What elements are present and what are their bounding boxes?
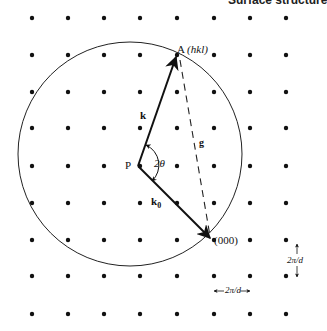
lattice-point [284, 53, 288, 57]
k0-vector [138, 166, 210, 238]
lattice-point [175, 90, 179, 94]
lattice-point [138, 126, 142, 130]
lattice-point [138, 274, 142, 278]
lattice-point [175, 312, 179, 316]
horizontal-spacing-label: 2π/d [225, 286, 241, 295]
lattice-point [102, 90, 106, 94]
lattice-point [102, 312, 106, 316]
lattice-point [66, 164, 70, 168]
lattice-point [66, 16, 70, 20]
lattice-point [248, 164, 252, 168]
lattice-point [284, 90, 288, 94]
lattice-point [212, 274, 216, 278]
g-vector [180, 60, 210, 236]
angle-label: 2θ [154, 158, 165, 169]
lattice-point [175, 164, 179, 168]
lattice-point [66, 201, 70, 205]
lattice-point [66, 126, 70, 130]
lattice-point [30, 53, 34, 57]
lattice-point [284, 312, 288, 316]
ewald-sphere [18, 42, 242, 266]
lattice-point [138, 53, 142, 57]
point-a-letter: A [177, 43, 184, 55]
lattice-point [102, 201, 106, 205]
lattice-point [248, 238, 252, 242]
lattice-point [212, 312, 216, 316]
lattice-point [212, 201, 216, 205]
k0-subscript: 0 [157, 201, 161, 210]
lattice-point [212, 16, 216, 20]
k-label: k [140, 110, 146, 121]
lattice-point [175, 126, 179, 130]
lattice-point [212, 53, 216, 57]
lattice-point [102, 16, 106, 20]
lattice-point [284, 16, 288, 20]
lattice-point [30, 164, 34, 168]
lattice-point [30, 90, 34, 94]
lattice-point [138, 238, 142, 242]
lattice-point [248, 201, 252, 205]
lattice-point [284, 201, 288, 205]
lattice-point [66, 238, 70, 242]
lattice-point [284, 164, 288, 168]
lattice-point [30, 274, 34, 278]
lattice-point [284, 126, 288, 130]
lattice-point [212, 164, 216, 168]
lattice-point [212, 90, 216, 94]
lattice-point [284, 238, 288, 242]
lattice-point [138, 16, 142, 20]
lattice-point [175, 238, 179, 242]
lattice-point [212, 126, 216, 130]
lattice-point [102, 53, 106, 57]
lattice-point [248, 126, 252, 130]
lattice-point [284, 274, 288, 278]
lattice-point [66, 312, 70, 316]
lattice-point [248, 312, 252, 316]
lattice-point [102, 238, 106, 242]
lattice-point [102, 126, 106, 130]
point-a-index: (hkl) [187, 43, 208, 55]
lattice-point [248, 90, 252, 94]
lattice-point [138, 201, 142, 205]
lattice-point [248, 53, 252, 57]
center-p-label: P [125, 160, 131, 171]
k0-label: k0 [151, 196, 161, 210]
lattice-point [175, 16, 179, 20]
lattice-point [248, 16, 252, 20]
lattice-point [66, 90, 70, 94]
lattice-point [66, 53, 70, 57]
point-a-label: A (hkl) [177, 44, 208, 55]
lattice-point [138, 90, 142, 94]
lattice-point [102, 274, 106, 278]
g-label: g [199, 138, 204, 148]
lattice-point [30, 312, 34, 316]
lattice-point [66, 274, 70, 278]
lattice-point [138, 312, 142, 316]
lattice-point [30, 238, 34, 242]
lattice-point [30, 126, 34, 130]
lattice-point [30, 16, 34, 20]
origin-label: (000) [214, 235, 238, 246]
vertical-spacing-label: 2π/d [287, 256, 303, 265]
lattice-point [102, 164, 106, 168]
lattice-point [248, 274, 252, 278]
figure-caption [0, 323, 323, 331]
lattice-point [175, 274, 179, 278]
